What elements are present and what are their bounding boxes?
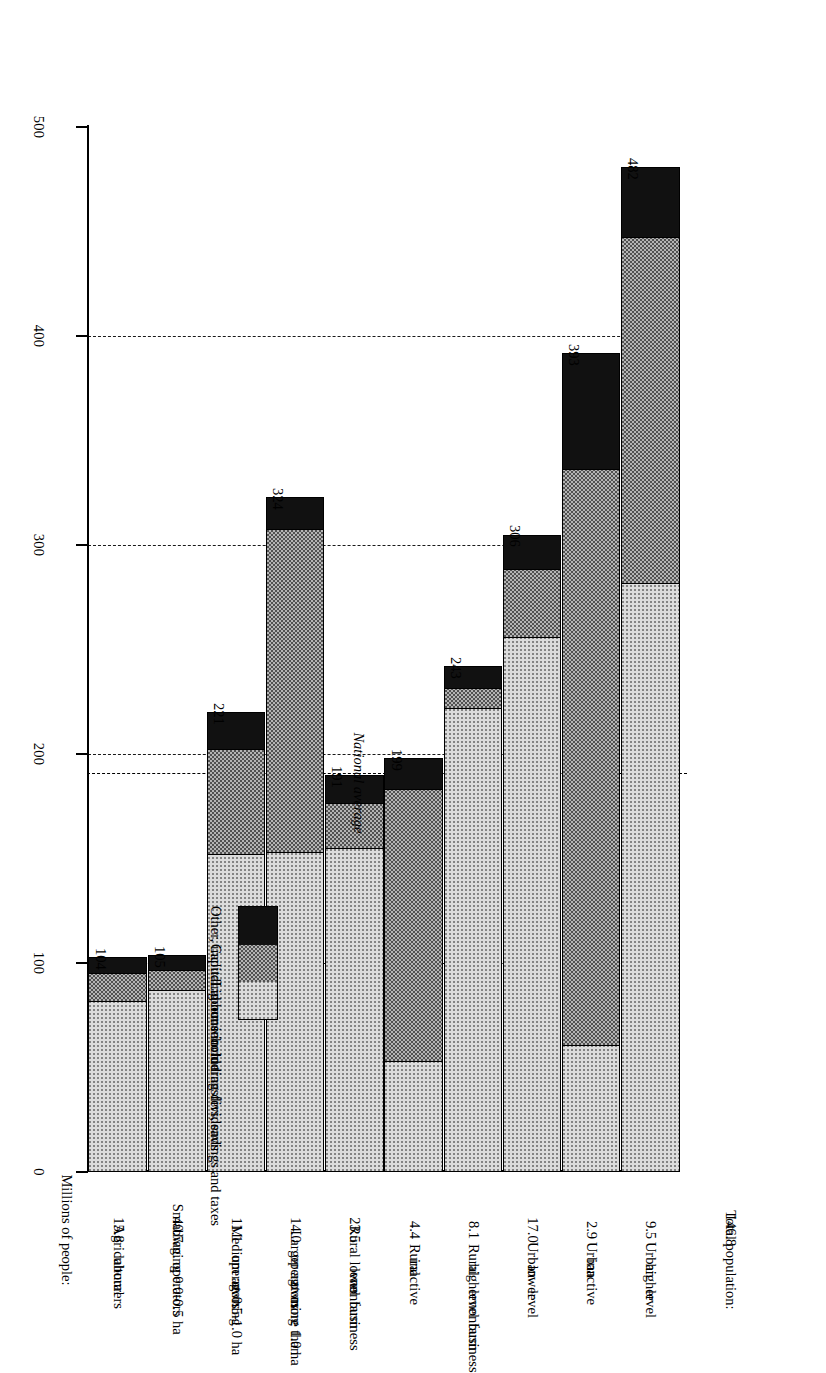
category-label-line: business [464,1323,481,1372]
category-label-line: level [524,1290,541,1318]
bar-stack[interactable] [88,955,146,1172]
bar-value-label: 104 [92,948,109,970]
legend-swatch-other [239,907,277,945]
bar-stack[interactable] [562,351,620,1172]
bar-segment-capital[interactable] [384,789,442,1063]
category-label-line: inactive [405,1259,422,1305]
bar-stack[interactable] [621,165,679,1172]
category-label-line: inactive [583,1259,600,1305]
bar-segment-capital[interactable] [621,237,679,584]
national-average-label: National average [350,732,367,833]
bar-value-label: 324 [269,488,286,510]
bar-value-label: 105 [151,946,168,968]
bar-segment-labour[interactable] [621,583,679,1172]
category-label-line: business [346,1301,363,1350]
category-label-line: owning 0.0-0.5 ha [168,1229,185,1335]
bar-segment-labour[interactable] [148,990,206,1172]
bar-segment-capital[interactable] [503,569,561,638]
bar-segment-capital[interactable] [444,688,502,709]
total-population-value: 146.8 [722,1214,739,1247]
bar-value-label: 482 [624,158,641,180]
bar-value-label: 393 [565,344,582,366]
axis-tick-label: 200 [30,743,47,766]
bar-segment-capital[interactable] [207,749,265,856]
category-label-line: labourers [109,1255,126,1309]
y-axis-title: Average per capita income (Rs '000) [0,544,1,755]
axis-tick-label: 0 [30,1168,47,1176]
category-label-line: level [642,1290,659,1318]
bar-value-label: 199 [388,749,405,771]
population-value: 17.0 [524,1217,541,1242]
legend-swatch-labour [239,981,277,1019]
population-value: 9.5 [642,1221,659,1239]
bar-value-label: 243 [447,657,464,679]
bar-value-label: 221 [210,703,227,725]
category-label-line: 1.0 ha [287,1330,304,1365]
bar-segment-labour[interactable] [444,708,502,1172]
legend-label: Labour income [207,982,224,1070]
bar-segment-capital[interactable] [88,972,146,1001]
bar-stack[interactable] [148,953,206,1172]
bar-segment-labour[interactable] [384,1061,442,1172]
bar-segment-labour[interactable] [325,848,383,1172]
population-value: 4.4 [405,1221,422,1239]
bar-stack[interactable] [384,756,442,1172]
population-header: Millions of people: [58,1174,75,1285]
legend-swatch-capital [239,944,277,982]
bar-stack[interactable] [444,664,502,1172]
bar-segment-capital[interactable] [266,529,324,853]
axis-tick-label: 500 [30,116,47,139]
bar-segment-other[interactable] [562,353,620,470]
bar-segment-capital[interactable] [562,469,620,1046]
axis-tick-label: 100 [30,952,47,975]
bar-value-label: 306 [506,525,523,547]
axis-tick-label: 300 [30,534,47,557]
bar-segment-capital[interactable] [148,970,206,991]
bar-stack[interactable] [266,495,324,1172]
axis-tick-label: 400 [30,325,47,348]
population-value: 2.9 [583,1221,600,1239]
population-value: 8.1 [464,1221,481,1239]
bar-value-label: 191 [328,766,345,788]
legend-swatch-box [238,906,278,1020]
gridline [88,336,680,337]
bar-segment-labour[interactable] [503,637,561,1172]
bar-segment-labour[interactable] [88,1001,146,1172]
bar-stack[interactable] [503,532,561,1172]
category-label-line: 0.5-1.0 ha [228,1297,245,1355]
bar-segment-labour[interactable] [562,1045,620,1172]
